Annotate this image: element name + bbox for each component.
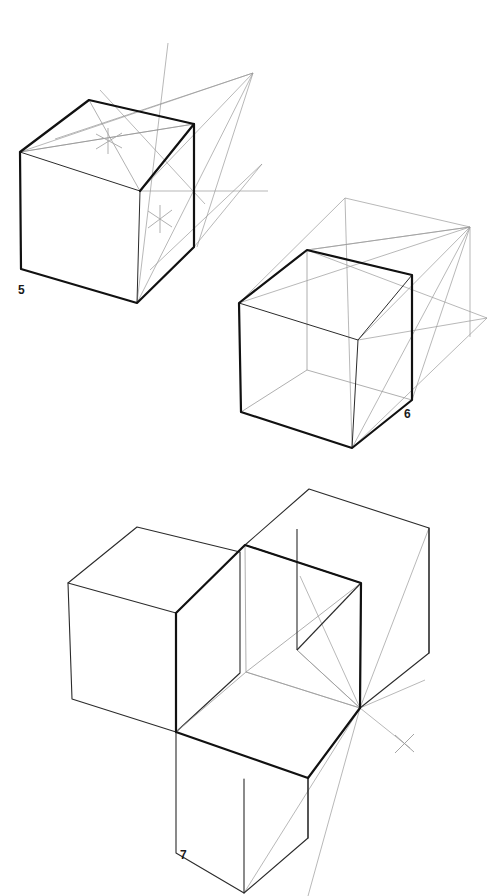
left-cube-inner-edge-top — [68, 583, 176, 613]
hidden-edge-right — [307, 370, 412, 400]
ghost-left-rise — [239, 198, 345, 303]
diagonal-long-upleft — [137, 43, 168, 303]
vp-ray-down-right — [197, 73, 253, 247]
figure-7-center-cube-outline — [176, 545, 361, 778]
drawing-sheet: 5 — [0, 0, 503, 896]
figure-6: 6 — [239, 198, 487, 448]
figure-6-number: 6 — [404, 407, 411, 421]
figure-5-inner-edges — [20, 152, 140, 303]
figure-5-cube-outline — [20, 100, 194, 303]
vp-ray-down-right — [308, 708, 360, 896]
hidden-edge-right — [246, 672, 360, 708]
hidden-edge-left — [176, 672, 246, 732]
front-vertical-edge — [352, 340, 358, 448]
top-left-edge — [239, 303, 358, 340]
vp-ray-c — [358, 227, 470, 340]
figure-7-left-cube — [68, 527, 240, 732]
perspective-cube-diagram: 5 — [0, 0, 503, 896]
ghost-diag — [307, 250, 487, 318]
right-face-center-x-icon — [148, 205, 172, 233]
figure-5-construction-lines — [20, 43, 268, 303]
vp-ray-right-far — [360, 680, 425, 708]
figure-7-construction-lines — [244, 528, 429, 896]
hidden-diag-b — [246, 583, 361, 672]
center-cube-silhouette — [176, 545, 361, 778]
figure-7-center-cube-inner-edges — [297, 529, 361, 650]
figure-7-number: 7 — [180, 848, 187, 862]
hidden-edge-left — [241, 370, 307, 412]
figure-6-construction-lines — [239, 198, 487, 448]
front-vertical-edge — [137, 191, 140, 303]
vp-ray-interior-c — [300, 576, 360, 708]
figure-7-right-cube — [245, 489, 429, 708]
hidden-vertical-back — [245, 545, 246, 672]
top-right-edge — [140, 124, 194, 191]
vp-ray-down-left — [244, 708, 360, 893]
hidden-diag-a — [297, 650, 360, 708]
right-cube-silhouette — [245, 489, 429, 708]
figure-5-top-face-diagonals — [20, 100, 194, 191]
secondary-ray-right-2 — [194, 164, 262, 247]
vanishing-point-x-icon — [395, 734, 414, 753]
top-left-edge — [20, 152, 140, 191]
vp-ray-center-top — [140, 73, 253, 191]
top-face-center-x-icon — [96, 128, 122, 154]
left-cube-silhouette — [68, 527, 240, 732]
ghost-upper-diag — [345, 198, 470, 227]
vp-ray-top-front-left — [20, 73, 253, 152]
figure-5: 5 — [18, 43, 268, 303]
top-right-edge — [358, 275, 412, 340]
vp-ray-e — [412, 227, 470, 400]
secondary-ray-right — [150, 164, 262, 270]
ghost-vertical-left — [345, 198, 352, 448]
top-diagonal-a — [20, 124, 194, 152]
figure-5-number: 5 — [18, 283, 25, 297]
ghost-top-edge — [307, 227, 470, 250]
figure-7: 7 — [68, 489, 429, 896]
cube-silhouette — [20, 100, 194, 303]
